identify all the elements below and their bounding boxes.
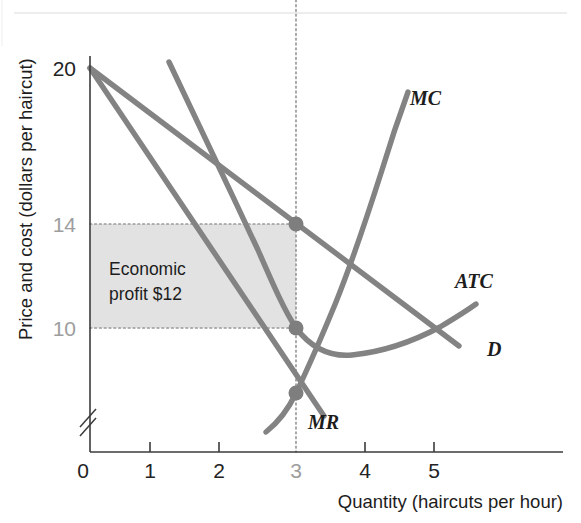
- economic-profit-label-line1: Economic: [109, 259, 186, 279]
- atc-curve-label: ATC: [453, 270, 493, 292]
- x-tick-label-5: 5: [428, 459, 440, 482]
- demand-curve-label: D: [486, 338, 501, 360]
- x-tick-label-4: 4: [359, 459, 371, 482]
- x-tick-label-3: 3: [290, 459, 302, 482]
- economics-figure: 20 14 10 0 1 2 3 4 5 Price and cost (dol…: [0, 0, 581, 523]
- point-mr-equals-mc: [289, 386, 304, 401]
- axis-break-mark: [80, 418, 96, 436]
- economic-profit-label-line2: profit $12: [109, 284, 182, 304]
- axis-break-mark: [80, 409, 96, 427]
- y-tick-label-14: 14: [53, 213, 77, 236]
- x-axis-title: Quantity (haircuts per hour): [338, 491, 563, 512]
- chart-svg: 20 14 10 0 1 2 3 4 5 Price and cost (dol…: [0, 0, 581, 523]
- mc-curve-label: MC: [409, 87, 442, 109]
- point-atc-10: [289, 321, 304, 336]
- point-price-14: [289, 217, 304, 232]
- x-tick-label-0: 0: [77, 459, 89, 482]
- y-tick-label-20: 20: [53, 57, 76, 80]
- y-tick-label-10: 10: [53, 317, 76, 340]
- mr-curve-label: MR: [307, 411, 339, 433]
- x-tick-label-2: 2: [213, 459, 225, 482]
- x-tick-label-1: 1: [144, 459, 156, 482]
- y-axis-title: Price and cost (dollars per haircut): [15, 58, 36, 340]
